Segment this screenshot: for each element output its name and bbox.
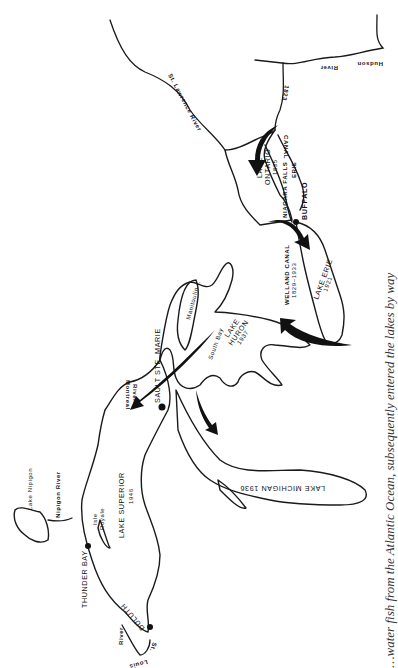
label-thunder-bay: THUNDER BAY xyxy=(80,550,89,608)
label-lake-ontario-2: ONTARIO xyxy=(263,149,272,185)
hudson-river xyxy=(255,15,383,64)
label-erie-canal-2: CANAL xyxy=(283,135,289,159)
label-lake-nipigon: Lake Nipigon xyxy=(27,468,33,510)
label-buffalo: BUFFALO xyxy=(300,182,309,220)
thunder-bay-marker xyxy=(85,543,91,549)
label-niagara-falls: NIAGARA FALLS xyxy=(282,162,288,218)
label-st-louis-3: River xyxy=(118,627,124,645)
arrow-superior xyxy=(130,330,215,410)
label-south-bay: South Bay xyxy=(207,327,224,360)
label-montreal-river-1: Montreal xyxy=(125,380,131,410)
label-isle-royale-1: Isle xyxy=(92,513,98,525)
label-lake-michigan: LAKE MICHIGAN 1936 xyxy=(240,484,325,493)
label-st-louis-2: Louis xyxy=(128,659,148,668)
label-lake-superior: LAKE SUPERIOR xyxy=(117,472,126,538)
buffalo-marker xyxy=(293,219,299,225)
sault-ste-marie-marker xyxy=(159,404,166,411)
label-montreal-river-2: River xyxy=(132,384,138,402)
figure-caption: …water fish from the Atlantic Ocean, sub… xyxy=(378,0,398,668)
label-isle-royale-2: Royale xyxy=(99,508,105,530)
label-erie-canal-1: ERIE xyxy=(291,162,297,178)
label-hudson-river: River xyxy=(320,65,338,71)
label-welland-years: 1829–1933 xyxy=(291,263,297,298)
label-welland-canal: WELLAND CANAL xyxy=(284,245,290,305)
label-lake-superior-year: 1946 xyxy=(128,488,134,504)
label-lake-ontario-year: 1835 xyxy=(272,159,278,175)
label-st-lawrence: St. Lawrence River xyxy=(167,73,203,133)
label-1823: 1823 xyxy=(281,85,290,102)
caption-text: …water fish from the Atlantic Ocean, sub… xyxy=(382,0,398,668)
arrow-michigan xyxy=(196,390,218,435)
great-lakes-lamprey-spread-map: St. Lawrence River Hudson River 1823 LAK… xyxy=(0,0,398,668)
duluth-marker xyxy=(147,624,153,630)
lake-nipigon-shore xyxy=(14,508,48,542)
label-sault-ste-marie: SAULT STE. MARIE xyxy=(153,328,162,403)
label-nipigon-river: Nipigon River xyxy=(55,471,61,518)
arrow-huron xyxy=(280,318,352,346)
label-manitoulin: Manitoulin I. xyxy=(185,280,201,320)
st-lawrence-river xyxy=(110,20,225,150)
